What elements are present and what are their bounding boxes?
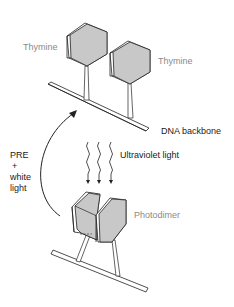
bottom-dna-backbone [51,250,148,292]
pre-label-line2: + [12,161,17,171]
bottom-stem-left [76,233,91,262]
thymine-left-label: Thymine [23,42,58,52]
repair-arrow [41,110,77,216]
thymine-right-label: Thymine [158,56,193,66]
photodimer-right [96,198,126,242]
arrow-head-icon [69,110,77,118]
pre-label-line3: white [10,172,31,182]
top-dna-backbone [48,82,149,131]
bottom-dna-structure [51,192,148,292]
thymine-right-hexagon [110,41,150,84]
top-stem-right [128,83,133,118]
pre-label-line4: light [10,183,27,193]
dna-backbone-label: DNA backbone [161,126,221,136]
photodimer-label: Photodimer [134,210,180,220]
bottom-stem-right [112,240,120,276]
top-stem-left [84,66,89,100]
uv-light-arrows [86,142,113,184]
pre-label-line1: PRE [10,150,29,160]
ultraviolet-light-label: Ultraviolet light [120,150,179,160]
thymine-left-hexagon [67,23,107,66]
top-dna-structure [48,23,150,131]
